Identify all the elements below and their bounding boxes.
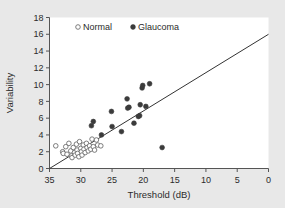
y-tick-label: 14 <box>33 46 43 56</box>
data-point-glaucoma <box>143 104 148 109</box>
data-point-glaucoma <box>132 121 137 126</box>
data-point-normal <box>53 144 58 149</box>
data-point-glaucoma <box>138 102 143 107</box>
data-point-normal <box>94 138 99 143</box>
x-tick-label: 20 <box>138 175 148 185</box>
legend-marker-normal <box>76 25 81 30</box>
x-tick-label: 15 <box>170 175 180 185</box>
data-point-glaucoma <box>125 96 130 101</box>
data-point-normal <box>65 152 70 157</box>
x-tick-label: 0 <box>266 175 271 185</box>
x-tick-label: 10 <box>201 175 211 185</box>
legend-label-normal: Normal <box>83 22 112 32</box>
y-tick-label: 2 <box>38 147 43 157</box>
x-tick-label: 30 <box>76 175 86 185</box>
legend-label-glaucoma: Glaucoma <box>138 22 179 32</box>
data-point-normal <box>99 144 104 149</box>
legend-marker-glaucoma <box>131 25 136 30</box>
data-point-glaucoma <box>109 109 114 114</box>
y-tick-label: 4 <box>38 130 43 140</box>
x-axis-title: Threshold (dB) <box>128 189 191 200</box>
y-tick-label: 16 <box>33 29 43 39</box>
data-point-glaucoma <box>99 133 104 138</box>
data-point-glaucoma <box>110 124 115 129</box>
y-tick-label: 12 <box>33 63 43 73</box>
data-point-glaucoma <box>160 145 165 150</box>
y-axis-title: Variability <box>4 73 15 114</box>
data-point-glaucoma <box>127 105 132 110</box>
data-point-glaucoma <box>91 119 96 124</box>
y-tick-label: 18 <box>33 13 43 23</box>
data-point-glaucoma <box>140 83 145 88</box>
data-point-normal <box>90 137 95 142</box>
data-point-normal <box>67 141 72 146</box>
y-tick-label: 10 <box>33 80 43 90</box>
y-tick-label: 6 <box>38 113 43 123</box>
x-tick-label: 5 <box>235 175 240 185</box>
x-tick-label: 25 <box>107 175 117 185</box>
chart-canvas: 02468101214161835302520151050Threshold (… <box>0 0 285 208</box>
y-tick-label: 8 <box>38 97 43 107</box>
x-tick-label: 35 <box>44 175 54 185</box>
data-point-glaucoma <box>137 113 142 118</box>
y-tick-label: 0 <box>38 164 43 174</box>
data-point-normal <box>92 148 97 153</box>
data-point-normal <box>77 139 82 144</box>
data-point-glaucoma <box>119 129 124 134</box>
data-point-glaucoma <box>147 81 152 86</box>
scatter-chart-figure: 02468101214161835302520151050Threshold (… <box>0 0 285 208</box>
